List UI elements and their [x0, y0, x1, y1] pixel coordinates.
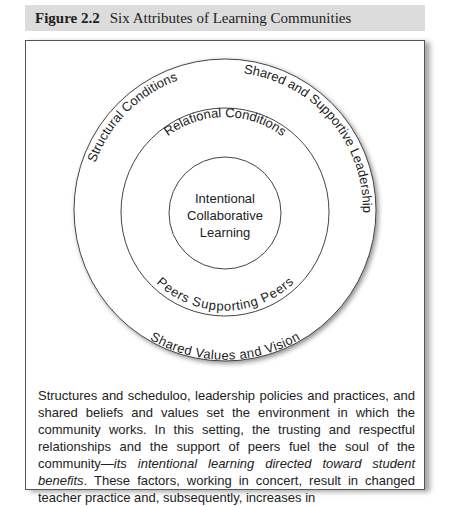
- center-line-3: Learning: [200, 225, 251, 240]
- figure-description: Structures and scheduloo, leadership pol…: [38, 387, 415, 506]
- center-line-2: Collaborative: [187, 208, 263, 223]
- center-line-1: Intentional: [195, 191, 255, 206]
- description-part-2: . These factors, working in concert, res…: [38, 473, 415, 505]
